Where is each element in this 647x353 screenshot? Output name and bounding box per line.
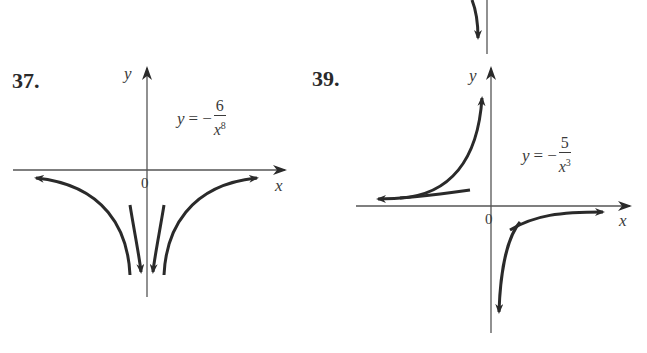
curve-37-right [164,178,257,275]
graph-37 [13,68,285,297]
negative-sign: − [202,109,212,129]
x-axis-label-37: x [275,176,283,196]
numerator: 5 [559,134,571,152]
equation-37: y = − 6 x8 [177,97,226,140]
denominator: x8 [214,116,226,140]
y-axis-label-37: y [124,64,132,84]
curve-37-left [36,178,130,275]
fraction: 5 x3 [559,134,571,177]
origin-label-39: 0 [485,211,493,228]
origin-label-37: 0 [141,175,149,192]
graph-39 [356,68,630,333]
y-axis-label-39: y [469,66,477,86]
problem-number-39: 39. [312,66,340,92]
fraction: 6 x8 [214,97,226,140]
denominator: x3 [559,153,571,177]
curve-39-left [400,98,482,198]
equals-sign: = [189,109,199,129]
x-axis-label-39: x [619,211,627,231]
previous-graph-fragment [472,0,487,54]
equals-sign: = [534,146,544,166]
equation-lhs: y [522,146,530,166]
problem-number-37: 37. [12,68,40,94]
equation-lhs: y [177,109,185,129]
equation-39: y = − 5 x3 [522,134,571,177]
numerator: 6 [214,97,226,115]
curve-39-right [499,222,520,312]
negative-sign: − [547,146,557,166]
